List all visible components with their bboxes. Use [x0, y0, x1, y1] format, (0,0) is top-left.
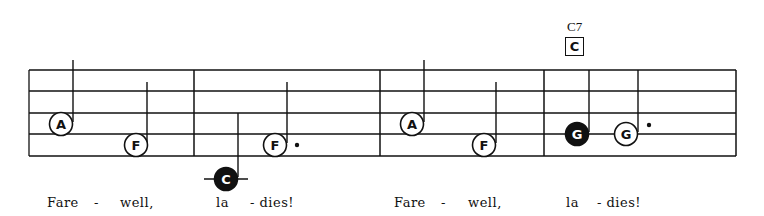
note-letter: G	[572, 127, 583, 142]
note-letter: A	[407, 117, 417, 132]
augmentation-dot	[295, 143, 299, 147]
chord-name: C7	[567, 19, 582, 35]
note-letter: F	[480, 138, 489, 153]
note-letter: G	[621, 127, 632, 142]
note-letter: C	[221, 172, 231, 187]
chord-box: C	[565, 37, 584, 56]
music-staff: AFCFAFGG	[0, 0, 764, 216]
lyric-syllable: la	[566, 195, 579, 210]
lyric-syllable: la	[216, 195, 229, 210]
lyric-syllable: -	[94, 195, 99, 210]
lyric-syllable: Fare	[47, 195, 79, 210]
lyric-syllable: Fare	[394, 195, 426, 210]
lyric-syllable: - dies!	[597, 195, 641, 210]
note-letter: F	[132, 138, 141, 153]
augmentation-dot	[647, 123, 651, 127]
note-letter: A	[56, 117, 66, 132]
lyric-syllable: -	[441, 195, 446, 210]
note-letter: F	[271, 138, 280, 153]
lyric-syllable: well,	[468, 195, 502, 210]
lyric-syllable: - dies!	[250, 195, 294, 210]
lyric-syllable: well,	[120, 195, 154, 210]
